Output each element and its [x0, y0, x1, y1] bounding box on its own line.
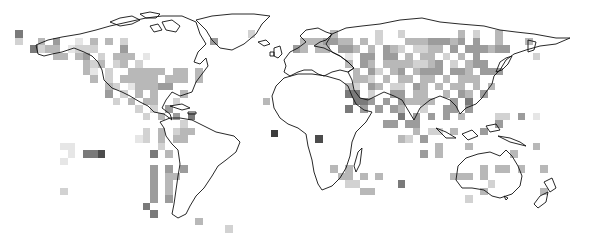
africa-outline [272, 74, 372, 190]
asia-outline [326, 18, 570, 120]
arctic-islands-outline [110, 12, 180, 32]
new-zealand-outline [534, 178, 556, 208]
caribbean-outline [170, 104, 196, 114]
europe-outline [258, 28, 354, 76]
madagascar-outline [354, 148, 362, 172]
coastline-outlines [0, 0, 592, 241]
world-map [0, 0, 592, 241]
australia-outline [456, 150, 522, 200]
indonesia-outline [436, 124, 526, 146]
greenland-outline [196, 14, 270, 50]
south-america-outline [160, 118, 240, 218]
